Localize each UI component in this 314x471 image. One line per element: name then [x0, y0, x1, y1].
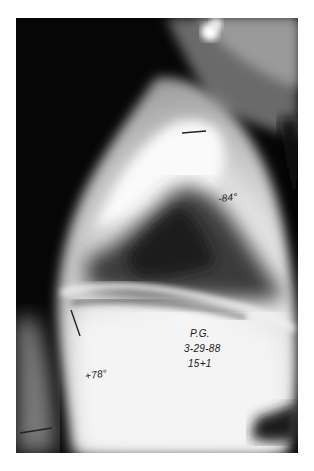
age-label: 15+1 [188, 358, 212, 369]
xray-radiograph [16, 18, 298, 453]
abdomen [76, 316, 283, 453]
upper-angle-label: -84° [217, 191, 238, 204]
date-label: 3-29-88 [184, 343, 221, 354]
patient-initials-label: P.G. [190, 328, 210, 339]
xray-image [16, 18, 298, 453]
